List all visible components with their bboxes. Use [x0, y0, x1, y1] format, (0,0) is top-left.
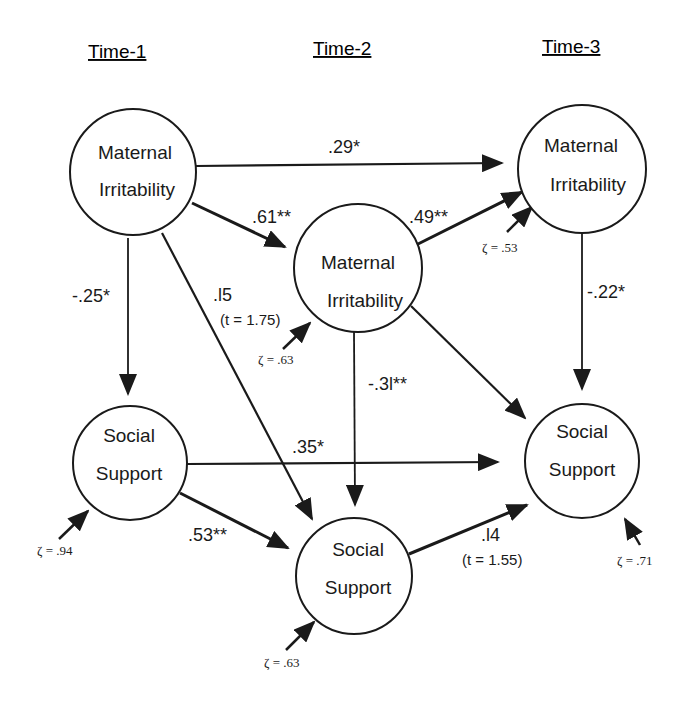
coef-ss2-ss3: .l4	[481, 525, 500, 545]
coef-mi1-mi2: .61**	[252, 207, 291, 227]
path-mi2-ss2	[354, 331, 355, 505]
residual-arrow-mi2	[283, 323, 310, 349]
coef-mi1-mi3: .29*	[328, 137, 360, 157]
path-mi1-mi3	[196, 163, 502, 166]
node-mi3-line1: Maternal	[544, 135, 618, 156]
coef-ss1-ss2: .53**	[188, 525, 227, 545]
node-ss3-line2: Support	[549, 459, 616, 480]
node-ss2-line1: Social	[332, 539, 384, 560]
node-ss2-line2: Support	[325, 577, 392, 598]
node-mi1-line2: Irritability	[99, 179, 176, 200]
path-ss2-ss3	[409, 505, 527, 554]
node-mi3-circle	[518, 105, 646, 233]
coef-ss1-ss3: .35*	[292, 437, 324, 457]
coef-mi1-ss1: -.25*	[72, 286, 110, 306]
residual-ss3: ζ = .71	[617, 553, 652, 568]
header-time-1: Time-1	[88, 41, 146, 62]
node-ss3-line1: Social	[556, 421, 608, 442]
residual-mi3: ζ = .53	[482, 240, 517, 255]
residual-ss1: ζ = .94	[37, 543, 73, 558]
node-mi1-line1: Maternal	[98, 142, 172, 163]
node-mi2-line2: Irritability	[327, 290, 404, 311]
node-mi1-circle	[70, 109, 196, 235]
node-ss2-circle	[296, 518, 412, 634]
header-time-3: Time-3	[542, 36, 600, 57]
node-ss1-line2: Support	[96, 463, 163, 484]
residual-arrow-mi3	[507, 207, 532, 232]
residual-mi2: ζ = .63	[258, 352, 293, 367]
path-diagram: Time-1 Time-2 Time-3 Maternal Irritabili…	[0, 0, 698, 710]
node-mi3-line2: Irritability	[550, 174, 627, 195]
residual-arrow-ss2	[286, 622, 314, 650]
residual-arrow-ss3	[625, 519, 640, 545]
residual-arrow-ss1	[59, 511, 88, 539]
tval-ss2-ss3: (t = 1.55)	[462, 551, 522, 568]
node-mi2-line1: Maternal	[321, 252, 395, 273]
header-time-2: Time-2	[313, 38, 371, 59]
residual-ss2: ζ = .63	[264, 655, 299, 670]
path-mi2-ss3	[411, 306, 525, 418]
coef-mi3-ss3: -.22*	[587, 282, 625, 302]
coef-mi2-ss2: -.3l**	[368, 374, 407, 394]
tval-mi1-ss2: (t = 1.75)	[220, 311, 280, 328]
coef-mi1-ss2: .l5	[213, 285, 232, 305]
node-ss1-line1: Social	[103, 425, 155, 446]
coef-mi2-mi3: .49**	[409, 207, 448, 227]
path-ss1-ss3	[187, 462, 498, 464]
